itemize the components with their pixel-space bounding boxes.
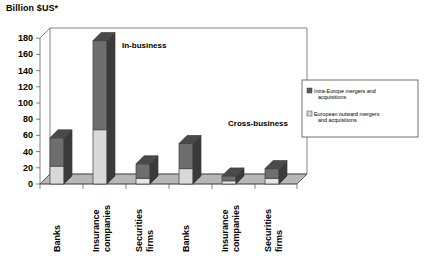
y-tick-100: 100	[18, 98, 40, 108]
y-tick-label: 100	[18, 98, 33, 108]
legend-label-european-outward-line1: European outward mergers	[314, 111, 380, 117]
y-tick-label: 120	[18, 82, 33, 92]
y-tick-label: 0	[28, 179, 33, 189]
y-tick-label: 160	[18, 49, 33, 59]
y-tick-0: 0	[28, 179, 40, 189]
y-tick-180: 180	[18, 33, 40, 43]
y-tick-label: 80	[23, 114, 33, 124]
y-tick-40: 40	[23, 147, 40, 157]
y-tick-label: 20	[23, 163, 33, 173]
annotation-in-business: In-business	[122, 41, 167, 50]
y-tick-label: 140	[18, 66, 33, 76]
y-tick-label: 40	[23, 147, 33, 157]
cat-label-banks-1: Banks	[52, 225, 62, 252]
legend-label-european-outward-line2: and acquisitions	[318, 117, 357, 123]
legend-label-intra-europe-line1: Intra-Europe mergers and	[314, 88, 376, 94]
x-axis-ticks	[40, 184, 297, 189]
cat-label-insurance-2a: Insurance	[220, 209, 230, 252]
bar-banks-in-business	[50, 130, 72, 184]
y-tick-140: 140	[18, 66, 40, 76]
annotation-cross-business: Cross-business	[228, 119, 289, 128]
cat-label-securities-2a: Securities	[263, 209, 273, 252]
bar-insurance-in-business	[93, 33, 115, 184]
cat-label-insurance-1a: Insurance	[91, 209, 101, 252]
cat-label-securities-1a: Securities	[134, 209, 144, 252]
y-tick-60: 60	[23, 130, 40, 140]
legend-label-intra-europe-line2: acquisitions	[318, 94, 346, 100]
y-axis: 0 20 40 60 80 100	[18, 33, 40, 189]
legend: Intra-Europe mergers and acquisitions Eu…	[302, 80, 418, 137]
y-tick-160: 160	[18, 49, 40, 59]
y-tick-120: 120	[18, 82, 40, 92]
axis-frame	[40, 28, 307, 184]
cat-label-banks-2: Banks	[181, 225, 191, 252]
cat-label-securities-1b: firms	[145, 230, 155, 252]
y-tick-label: 60	[23, 130, 33, 140]
y-tick-80: 80	[23, 114, 40, 124]
x-axis-labels: Banks Insurance companies Securities fir…	[52, 205, 284, 252]
chart-container: Billion $US* 0	[0, 0, 425, 256]
cat-label-insurance-1b: companies	[102, 205, 112, 252]
bar-banks-cross-business	[179, 136, 201, 185]
cat-label-insurance-2b: companies	[231, 205, 241, 252]
y-tick-label: 180	[18, 33, 33, 43]
cat-label-securities-2b: firms	[274, 230, 284, 252]
bar-securities-in-business	[136, 156, 158, 184]
y-tick-20: 20	[23, 163, 40, 173]
chart-svg: 0 20 40 60 80 100	[0, 0, 425, 256]
